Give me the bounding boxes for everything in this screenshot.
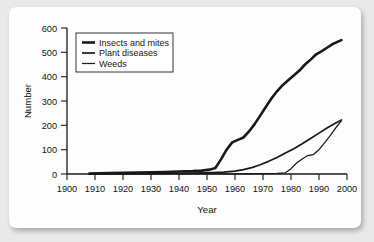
figure-card: 600 500 400 300 200 100 0 190 [9, 7, 361, 228]
y-tick-label-200: 200 [42, 121, 57, 131]
line-chart: 600 500 400 300 200 100 0 190 [9, 7, 361, 228]
x-axis-ticks [67, 174, 347, 180]
x-tick-label-1950: 1950 [197, 184, 217, 194]
x-axis-title: Year [197, 204, 217, 215]
x-tick-label-1920: 1920 [113, 184, 133, 194]
y-tick-label-500: 500 [42, 48, 57, 58]
x-tick-label-1960: 1960 [225, 184, 245, 194]
chart-legend: Insects and mites Plant diseases Weeds [76, 33, 173, 72]
y-tick-label-100: 100 [42, 145, 57, 155]
x-tick-label-2000: 2000 [337, 184, 357, 194]
x-tick-label-1990: 1990 [309, 184, 329, 194]
legend-label-insects-and-mites: Insects and mites [99, 38, 170, 48]
y-tick-label-400: 400 [42, 72, 57, 82]
y-tick-label-0: 0 [52, 170, 57, 180]
y-tick-label-300: 300 [42, 97, 57, 107]
legend-label-weeds: Weeds [99, 59, 127, 69]
x-tick-label-1930: 1930 [141, 184, 161, 194]
legend-label-plant-diseases: Plant diseases [99, 48, 158, 58]
x-tick-label-1900: 1900 [57, 184, 77, 194]
x-tick-label-1970: 1970 [253, 184, 273, 194]
y-axis-title: Number [22, 83, 33, 118]
x-tick-label-1910: 1910 [85, 184, 105, 194]
y-tick-label-600: 600 [42, 24, 57, 34]
chart-canvas: 600 500 400 300 200 100 0 190 [9, 7, 361, 228]
x-tick-label-1940: 1940 [169, 184, 189, 194]
x-tick-label-1980: 1980 [281, 184, 301, 194]
y-axis-ticks [61, 28, 67, 174]
